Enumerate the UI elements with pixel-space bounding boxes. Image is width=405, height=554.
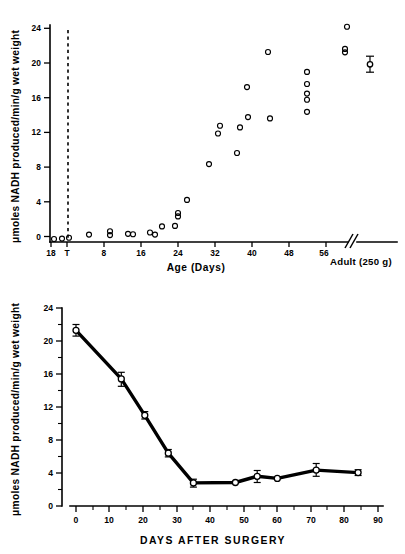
x-tick-50: 50 [239, 515, 249, 525]
data-point [355, 470, 362, 476]
y-tick-16: 16 [43, 369, 53, 379]
x-tick-24: 24 [173, 248, 183, 258]
data-point [232, 480, 238, 486]
top-scatter-points [52, 50, 310, 242]
y-tick-0: 0 [36, 232, 41, 242]
x-tick-48: 48 [284, 248, 294, 258]
x-tick-20: 20 [138, 515, 148, 525]
y-tick-4: 4 [48, 468, 53, 478]
top-y-ticks [44, 28, 50, 236]
bottom-y-axis-title: μmoles NADH produced/min/g wet weight [10, 303, 21, 516]
adult-mean-with-error-bars [366, 56, 374, 72]
x-tick-70: 70 [306, 515, 316, 525]
x-tick-8: 8 [102, 248, 107, 258]
data-point [141, 412, 148, 419]
x-tick-56: 56 [319, 248, 329, 258]
top-x-tick-labels: 18 T 8 16 24 32 40 48 56 [46, 248, 329, 258]
top-y-axis-title: μmoles NADH produced/min/g wet weight [10, 30, 21, 243]
top-axes [50, 25, 397, 242]
adult-group-label: Adult (250 g) [330, 256, 392, 267]
y-tick-12: 12 [31, 127, 41, 137]
data-point [190, 479, 197, 487]
x-tick-90: 90 [373, 515, 383, 525]
y-tick-24: 24 [31, 23, 41, 33]
figure-container: μmoles NADH produced/min/g wet weight [0, 0, 405, 554]
x-tick-16: 16 [136, 248, 146, 258]
data-point [165, 450, 172, 457]
post-surgery-line-svg: μmoles NADH produced/min/g wet weight [0, 278, 405, 554]
top-panel: μmoles NADH produced/min/g wet weight [0, 0, 405, 278]
y-tick-8: 8 [48, 435, 53, 445]
x-tick-30: 30 [172, 515, 182, 525]
y-tick-12: 12 [43, 402, 53, 412]
x-axis-break-icon [345, 234, 358, 248]
top-y-tick-labels: 24 20 16 12 8 4 0 [31, 23, 41, 241]
data-point [274, 475, 280, 481]
adult-individual-points [343, 24, 350, 55]
bottom-x-axis-title: DAYS AFTER SURGERY [140, 535, 286, 546]
post-surgery-data-points [73, 325, 362, 488]
developmental-scatter-svg: μmoles NADH produced/min/g wet weight [0, 0, 405, 278]
x-tick-60: 60 [272, 515, 282, 525]
top-x-axis-title: Age (Days) [167, 262, 226, 273]
post-surgery-trend-line [76, 330, 358, 483]
x-tick-T: T [64, 248, 70, 258]
x-tick-80: 80 [339, 515, 349, 525]
x-tick-40: 40 [205, 515, 215, 525]
bottom-y-tick-labels: 24 20 16 12 8 4 0 [43, 303, 53, 511]
bottom-axes [62, 308, 383, 506]
x-tick-32: 32 [210, 248, 220, 258]
x-tick-10: 10 [104, 515, 114, 525]
y-tick-16: 16 [31, 93, 41, 103]
x-tick-0: 0 [74, 515, 79, 525]
x-tick-18: 18 [46, 248, 56, 258]
data-point [254, 471, 261, 483]
bottom-x-tick-labels: 0 10 20 30 40 50 60 70 80 90 [74, 515, 383, 525]
y-tick-20: 20 [31, 58, 41, 68]
y-tick-4: 4 [36, 197, 41, 207]
bottom-y-ticks [56, 308, 62, 506]
x-tick-40: 40 [247, 248, 257, 258]
bottom-x-ticks [76, 506, 378, 512]
y-tick-24: 24 [43, 303, 53, 313]
y-tick-20: 20 [43, 336, 53, 346]
y-tick-0: 0 [48, 501, 53, 511]
data-point [313, 464, 320, 477]
y-tick-8: 8 [36, 162, 41, 172]
bottom-panel: μmoles NADH produced/min/g wet weight [0, 278, 405, 554]
